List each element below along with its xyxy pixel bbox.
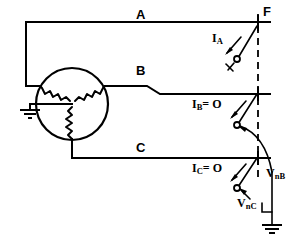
switch-blade-a[interactable]	[238, 26, 257, 58]
switch-blade-b[interactable]	[238, 94, 257, 124]
switch-contact-a[interactable]	[234, 56, 240, 62]
label-voltage-nb-symbol: V	[266, 166, 275, 180]
label-current-a-subscript: A	[217, 36, 223, 46]
label-fault-point-f: F	[263, 5, 271, 18]
label-phase-b: B	[136, 64, 145, 77]
label-voltage-nb-subscript: nB	[275, 171, 285, 181]
conductor-phase-b	[105, 86, 270, 94]
circuit-diagram: A B C F IA IB= O IC= O VnB VnC	[0, 0, 303, 244]
switch-blade-c[interactable]	[238, 158, 257, 187]
label-voltage-nc: VnC	[237, 197, 257, 209]
label-current-c-symbol: I	[192, 161, 197, 175]
label-voltage-nc-subscript: nC	[246, 201, 257, 211]
label-phase-a: A	[136, 8, 145, 21]
conductor-phase-a	[26, 22, 270, 86]
label-current-b-subscript: B	[197, 102, 203, 112]
label-current-a: IA	[212, 32, 223, 44]
winding-phase-c	[66, 107, 72, 139]
label-phase-c: C	[136, 141, 145, 154]
label-voltage-nc-symbol: V	[237, 196, 246, 210]
switch-contact-c[interactable]	[234, 185, 240, 191]
circuit-svg	[0, 0, 303, 244]
label-current-b-symbol: I	[192, 97, 197, 111]
switch-contact-b[interactable]	[234, 122, 240, 128]
label-current-b-value: = O	[202, 97, 221, 111]
conductor-phase-c	[72, 139, 270, 158]
label-current-a-symbol: I	[212, 31, 217, 45]
winding-phase-b	[75, 86, 105, 101]
vnc-return-conductor	[262, 203, 272, 212]
winding-phase-a	[40, 86, 70, 101]
label-current-c-subscript: C	[197, 166, 203, 176]
label-current-c: IC= O	[192, 162, 222, 174]
label-current-b: IB= O	[192, 98, 222, 110]
label-current-c-value: = O	[203, 161, 222, 175]
label-voltage-nb: VnB	[266, 167, 285, 179]
fault-ground-symbol	[262, 225, 282, 233]
